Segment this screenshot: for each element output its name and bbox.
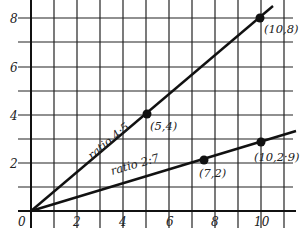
label-5-4: (5,4) [150, 119, 177, 133]
x-tick-6: 6 [166, 215, 174, 229]
ratio-2-7-line [31, 131, 296, 211]
ratio-line-chart: (10,8) (5,4) (7,2) (10,2·9) ratio 4:5 ra… [0, 0, 301, 239]
ratio-4-5-label: ratio 4:5 [85, 120, 132, 163]
point-7-2 [200, 156, 209, 165]
x-tick-10: 10 [254, 215, 270, 229]
y-tick-8: 8 [10, 12, 18, 26]
label-7-2: (7,2) [199, 166, 226, 180]
point-10-2-9 [257, 138, 266, 147]
ratio-4-5-line [31, 6, 273, 211]
label-10-8: (10,8) [264, 22, 299, 36]
point-5-4 [143, 110, 152, 119]
y-tick-6: 6 [10, 61, 18, 75]
y-tick-4: 4 [9, 109, 18, 123]
x-tick-4: 4 [118, 215, 127, 229]
origin-label: 0 [18, 215, 26, 229]
y-tick-2: 2 [9, 157, 18, 171]
x-tick-2: 2 [72, 215, 81, 229]
x-tick-8: 8 [211, 215, 219, 229]
label-10-2-9: (10,2·9) [254, 150, 300, 164]
